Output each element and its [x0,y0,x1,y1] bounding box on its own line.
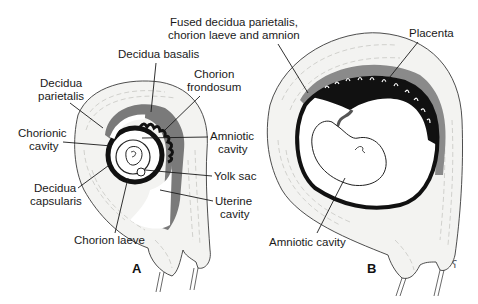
label-fused-membranes-2: chorion laeve and amnion [168,29,300,41]
panel-a: Decidua basalis Decidua parietalis Chori… [18,48,257,292]
label-amniotic-cavity-b: Amniotic cavity [269,236,346,248]
label-decidua-parietalis-2: parietalis [38,90,84,102]
label-decidua-capsularis-2: capsularis [30,195,82,207]
label-chorionic-cavity-2: cavity [29,140,59,152]
label-chorion-frondosum-1: Chorion [194,68,234,80]
pregnancy-membranes-diagram: Decidua basalis Decidua parietalis Chori… [0,0,478,304]
label-decidua-basalis: Decidua basalis [118,48,199,60]
panel-label-a: A [132,261,142,276]
label-placenta: Placenta [409,27,454,39]
label-uterine-cavity-1: Uterine [215,195,252,207]
panel-label-b: B [367,261,376,276]
label-decidua-capsularis-1: Decidua [34,182,77,194]
label-amniotic-cavity-1: Amniotic [210,130,254,142]
label-yolk-sac: Yolk sac [214,170,257,182]
yolk-sac-a [137,168,145,176]
cervix-a [156,268,198,292]
label-chorion-frondosum-2: frondosum [187,81,241,93]
label-chorion-laeve: Chorion laeve [74,234,145,246]
label-chorionic-cavity-1: Chorionic [18,127,67,139]
signature-mark: ʕ [452,259,457,270]
label-decidua-parietalis-1: Decidua [40,77,83,89]
label-uterine-cavity-2: cavity [220,208,250,220]
label-amniotic-cavity-2: cavity [218,143,248,155]
panel-b: ʕ Fused decidua parietalis, chorion laev… [168,16,463,296]
label-fused-membranes-1: Fused decidua parietalis, [170,16,298,28]
embryo-a [126,146,142,165]
